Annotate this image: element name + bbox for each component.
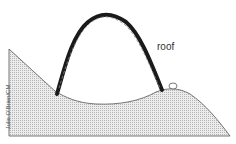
boulder <box>169 83 177 89</box>
ground <box>9 49 230 136</box>
credit-text: Julie O'Brien/CM <box>5 77 11 137</box>
roof-arch <box>57 15 162 95</box>
roof-label: roof <box>157 41 174 52</box>
cave-diagram <box>0 0 236 144</box>
